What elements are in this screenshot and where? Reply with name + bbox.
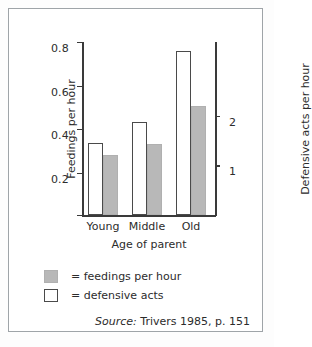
y-tick-right-1: 1 [215, 165, 220, 166]
legend-item-defensive: = defensive acts [44, 286, 181, 305]
y-tick-left-0 [77, 215, 82, 216]
y-axis-left-line [82, 42, 84, 216]
bar-defensive-middle [132, 122, 147, 214]
plot-area: 0.2 0.4 0.6 0.8 1 2 Feedings per hour De… [82, 42, 216, 216]
legend-label-feedings: = feedings per hour [71, 270, 181, 283]
legend-item-feedings: = feedings per hour [44, 267, 181, 286]
y-tick-left-4: 0.8 [77, 42, 82, 43]
y-tick-right-2: 2 [215, 116, 220, 117]
y-tick-label-right-0: 1 [229, 165, 236, 178]
legend: = feedings per hour = defensive acts [44, 267, 181, 305]
x-axis-line [82, 215, 216, 217]
legend-label-defensive: = defensive acts [71, 289, 163, 302]
y-axis-left-title: Feedings per hour [65, 79, 78, 178]
y-axis-right-line [215, 42, 217, 216]
legend-swatch-white-icon [44, 289, 58, 302]
figure-container: 0.2 0.4 0.6 0.8 1 2 Feedings per hour De… [0, 0, 274, 347]
source-word: Source: [95, 315, 137, 328]
y-tick-label-right-1: 2 [229, 116, 236, 129]
x-axis-title: Age of parent [82, 238, 216, 251]
source-citation: Trivers 1985, p. 151 [137, 315, 250, 328]
legend-swatch-gray-icon [44, 270, 58, 283]
bar-defensive-old [176, 51, 191, 214]
bar-feedings-middle [147, 144, 162, 215]
figure-frame: 0.2 0.4 0.6 0.8 1 2 Feedings per hour De… [8, 8, 263, 332]
x-tick-label-old: Old [161, 220, 221, 233]
bar-feedings-young [103, 155, 118, 215]
source-note: Source: Trivers 1985, p. 151 [95, 315, 250, 328]
y-tick-label-left-3: 0.8 [51, 42, 69, 55]
bar-feedings-old [191, 106, 206, 215]
bar-defensive-young [88, 143, 103, 215]
